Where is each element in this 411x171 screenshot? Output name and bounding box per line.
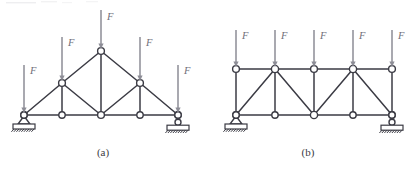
a-top-chord-right-upper [101,51,140,83]
a-roller-support-ground-block [167,125,189,130]
a-diagonal-right [101,83,140,115]
b-load-5: F [389,30,405,67]
caption-group: (a) (b) [97,146,315,159]
b-bottom-3 [310,111,317,118]
a-top-chord-right-lower [140,83,178,115]
truss-figure: FFFFF FFFFF (a) (b) [0,0,411,171]
a-bottom-mid [98,112,105,119]
a-load-5: F [175,65,191,113]
truss-figure-canvas: FFFFF FFFFF (a) (b) [0,0,411,171]
a-diagonal-left [62,83,101,115]
truss-b: FFFFF [223,30,405,133]
b-load-2-label: F [280,30,288,41]
b-load-1-label: F [241,30,249,41]
caption-b: (b) [302,146,315,159]
b-load-5-label: F [397,30,405,41]
a-load-2-label: F [67,37,75,48]
b-bottom-2 [272,112,278,118]
a-pin-support-ground-block [13,124,35,129]
b-load-3: F [311,30,327,67]
a-top-chord-left-lower [24,83,62,115]
b-bottom-4 [350,112,356,118]
b-bottom-5 [389,112,395,118]
a-load-1-label: F [29,65,37,76]
a-load-3: F [98,10,114,49]
a-top-chord-left-upper [62,51,101,83]
a-load-3-label: F [106,11,114,22]
a-load-4-label: F [145,37,153,48]
b-roller-support-roller-wheel [389,119,395,125]
b-diagonal-3 [314,69,353,115]
b-pin-support-ground-block [225,124,247,129]
caption-a: (a) [97,146,110,159]
a-roller-support-roller-wheel [175,119,181,125]
b-diagonal-4 [353,69,392,115]
a-load-4: F [137,37,153,81]
b-load-2: F [272,30,288,67]
a-bottom-2 [59,112,65,118]
b-diagonal-1 [236,69,275,115]
b-diagonal-2 [275,69,314,115]
a-bottom-4 [137,112,143,118]
b-bottom-1 [233,112,239,118]
truss-a: FFFFF [11,10,191,133]
b-load-1: F [233,30,249,67]
scan-artifact-group [6,1,98,3]
b-load-4: F [350,30,366,67]
b-load-4-label: F [358,30,366,41]
b-load-3-label: F [319,30,327,41]
a-load-5-label: F [183,65,191,76]
b-roller-support-ground-block [381,125,403,130]
